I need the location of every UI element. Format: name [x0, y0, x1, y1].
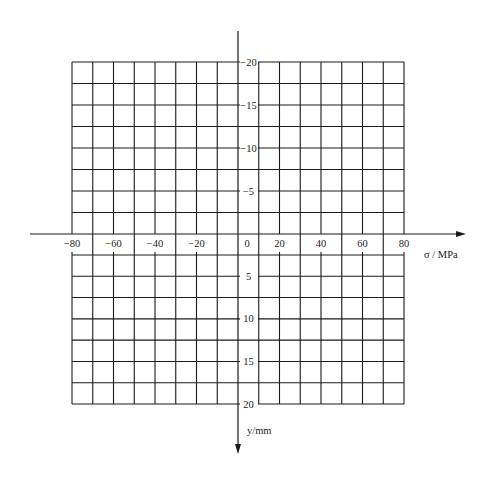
x-tick-label: 60: [357, 238, 368, 249]
x-tick-label: −80: [64, 238, 80, 249]
y-tick-label: −10: [240, 143, 256, 154]
x-tick-label: −20: [188, 238, 204, 249]
x-tick-label: 40: [316, 238, 327, 249]
stress-grid-diagram: −80−60−40−20020406080−20−15−10−55101520 …: [0, 0, 492, 482]
x-tick-label: −40: [147, 238, 163, 249]
x-tick-label: 20: [274, 238, 285, 249]
vertical-axis-arrow-icon: [235, 444, 241, 454]
y-tick-label: 15: [243, 356, 254, 367]
y-tick-label: 5: [246, 271, 251, 282]
x-tick-label: 80: [399, 238, 410, 249]
vertical-axis-title: y/mm: [247, 425, 272, 436]
x-tick-label: 0: [244, 238, 249, 249]
y-tick-label: −15: [240, 100, 256, 111]
horizontal-axis-arrow-icon: [456, 231, 466, 237]
tick-labels: −80−60−40−20020406080−20−15−10−55101520: [64, 56, 409, 410]
y-tick-label: −5: [243, 186, 254, 197]
x-tick-label: −60: [105, 238, 121, 249]
y-tick-label: 10: [243, 313, 254, 324]
y-tick-label: 20: [243, 399, 254, 410]
horizontal-axis-title: σ / MPa: [424, 249, 458, 260]
y-tick-label: −20: [240, 57, 256, 68]
